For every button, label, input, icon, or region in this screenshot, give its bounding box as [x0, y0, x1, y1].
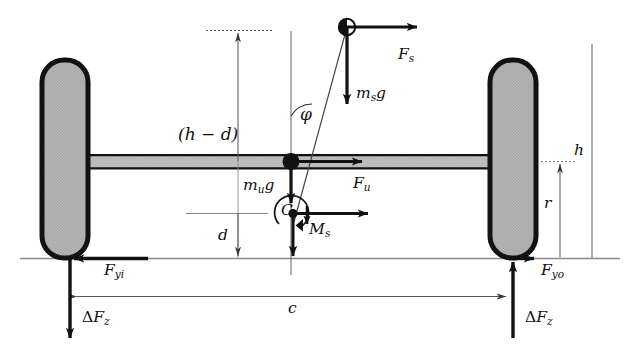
label-dFz-right-sub: z — [547, 315, 553, 327]
figure-canvas: (h − d) φ msg Fs mug Fu C Ms Fyi Fyo ΔFz… — [0, 0, 633, 357]
label-d-text: d — [218, 226, 228, 244]
label-Ms-sub: s — [325, 227, 330, 239]
wheel-right — [490, 60, 536, 258]
label-Fyo-sub: yo — [552, 268, 564, 280]
label-d: d — [218, 228, 228, 244]
label-dFz-right-base: F — [536, 308, 547, 326]
label-mug: mug — [243, 178, 274, 194]
label-r: r — [544, 196, 551, 212]
label-Fu-sub: u — [364, 181, 371, 193]
label-C-text: C — [281, 201, 293, 219]
label-phi-text: φ — [300, 104, 312, 124]
label-Fyo: Fyo — [541, 263, 564, 279]
label-c: c — [288, 301, 297, 317]
label-mug-sub: u — [258, 183, 265, 195]
label-Fyo-base: F — [541, 261, 552, 279]
label-dFz-left: ΔFz — [82, 310, 110, 326]
label-Fyi-base: F — [104, 261, 115, 279]
label-C: C — [281, 203, 293, 219]
label-mug-tail: g — [265, 176, 275, 194]
label-Fyi-sub: yi — [115, 268, 124, 280]
label-mug-base: m — [243, 176, 258, 194]
label-r-text: r — [544, 194, 551, 212]
label-dFz-right-delta: Δ — [525, 308, 536, 326]
label-Fs: Fs — [398, 47, 414, 63]
label-msg-sub: s — [371, 91, 376, 103]
free-body-diagram-svg — [0, 0, 633, 357]
label-h-minus-d-text: (h − d) — [178, 124, 238, 144]
label-Fyi: Fyi — [104, 263, 124, 279]
label-h-text: h — [574, 141, 584, 159]
dimension-h — [536, 44, 600, 259]
label-Fu-base: F — [353, 174, 364, 192]
label-Fu: Fu — [353, 176, 371, 192]
label-Fs-sub: s — [409, 52, 414, 64]
label-Fs-base: F — [398, 45, 409, 63]
label-msg-tail: g — [376, 84, 386, 102]
dimension-h-minus-d — [206, 31, 272, 259]
label-dFz-left-delta: Δ — [82, 308, 93, 326]
label-dFz-left-base: F — [93, 308, 104, 326]
label-c-text: c — [288, 299, 297, 317]
label-h-minus-d: (h − d) — [178, 126, 238, 143]
label-dFz-left-sub: z — [104, 315, 110, 327]
wheel-left — [42, 60, 88, 258]
label-h: h — [574, 143, 584, 159]
pendulum-arm — [294, 27, 347, 222]
label-Ms-base: M — [309, 220, 325, 238]
label-dFz-right: ΔFz — [525, 310, 553, 326]
label-Ms: Ms — [309, 222, 330, 238]
label-phi: φ — [300, 106, 312, 123]
label-msg: msg — [356, 86, 386, 102]
label-msg-base: m — [356, 84, 371, 102]
